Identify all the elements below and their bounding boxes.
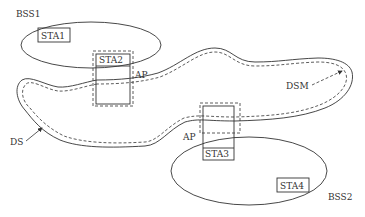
- ds-label: DS: [10, 137, 23, 147]
- ap-top-label: AP: [134, 70, 148, 80]
- bss2-label: BSS2: [328, 192, 353, 202]
- bss1-label: BSS1: [16, 9, 41, 19]
- ess-diagram: BSS1 STA1 STA2 AP STA3 AP BSS2 STA4 DS D…: [0, 0, 365, 217]
- bss1-ellipse: [21, 22, 161, 68]
- sta3-label: STA3: [205, 149, 229, 159]
- bss2-ellipse: [171, 137, 327, 205]
- dsm-boundary: [23, 52, 347, 143]
- dsm-arrow: [312, 71, 342, 85]
- dsm-label: DSM: [286, 81, 309, 91]
- sta4-label: STA4: [280, 181, 304, 191]
- ds-arrow: [26, 128, 42, 141]
- ap-bottom-label: AP: [182, 132, 196, 142]
- sta2-label: STA2: [99, 55, 123, 65]
- sta1-label: STA1: [41, 31, 65, 41]
